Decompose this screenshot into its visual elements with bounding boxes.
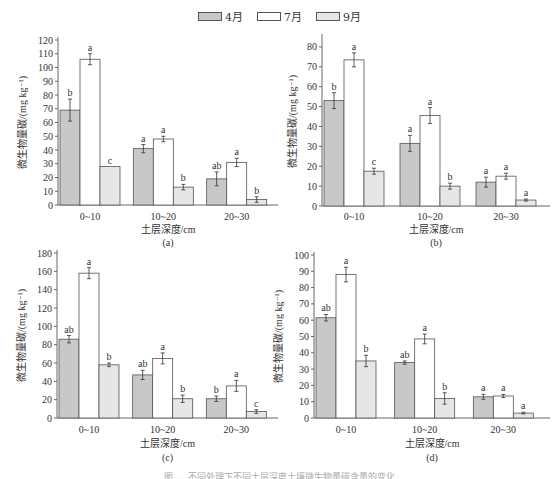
y-tick-label: 40 [299, 347, 309, 358]
y-tick-label: 20 [42, 394, 52, 405]
y-tick-label: 70 [299, 298, 309, 309]
x-tick-label: 20~30 [224, 211, 249, 222]
significance-letter: a [504, 161, 509, 172]
significance-letter: a [160, 341, 165, 352]
significance-letter: a [408, 123, 413, 134]
bar-4月-10~20 [395, 363, 415, 418]
y-tick-label: 110 [38, 48, 53, 59]
x-tick-label: 10~20 [150, 424, 175, 435]
significance-letter: b [68, 87, 73, 98]
x-tick-label: 0~10 [336, 424, 356, 435]
y-axis-label: 微生物量碳/(mg kg⁻¹) [16, 76, 29, 169]
significance-letter: a [501, 382, 506, 393]
chart-panel-d: 0102030405060708090100微生物量碳/(mg kg⁻¹)aba… [280, 240, 559, 467]
legend-item-april: 4月 [198, 8, 243, 24]
y-tick-label: 30 [43, 158, 53, 169]
figure-caption: 图 ... 不同处理下不同土层深度土壤微生物量碳含量的变化 [0, 470, 559, 479]
legend-item-september: 9月 [316, 8, 361, 24]
y-tick-label: 60 [307, 81, 317, 92]
y-tick-label: 50 [43, 131, 53, 142]
y-tick-label: 80 [299, 282, 309, 293]
y-tick-label: 60 [299, 315, 309, 326]
significance-letter: ab [400, 349, 409, 360]
x-tick-label: 0~10 [80, 211, 100, 222]
significance-letter: a [87, 256, 92, 267]
bar-7月-20~30 [496, 176, 516, 206]
significance-letter: b [254, 185, 259, 196]
y-tick-label: 10 [43, 186, 53, 197]
significance-letter: a [344, 255, 349, 266]
y-tick-label: 100 [37, 321, 52, 332]
y-tick-label: 30 [299, 364, 309, 375]
bar-7月-10~20 [415, 339, 435, 418]
significance-letter: a [481, 382, 486, 393]
y-tick-label: 80 [43, 90, 53, 101]
significance-letter: a [422, 322, 427, 333]
y-tick-label: 20 [307, 161, 317, 172]
significance-letter: b [214, 384, 219, 395]
bar-9月-0~10 [364, 171, 384, 206]
y-tick-label: 140 [37, 284, 52, 295]
significance-letter: b [180, 383, 185, 394]
y-tick-label: 70 [307, 61, 317, 72]
y-tick-label: 40 [42, 376, 52, 387]
bar-4月-10~20 [400, 143, 420, 206]
legend-label-september: 9月 [343, 8, 361, 24]
significance-letter: b [107, 351, 112, 362]
y-tick-label: 40 [43, 145, 53, 156]
x-tick-label: 20~30 [493, 211, 518, 222]
significance-letter: ab [64, 324, 73, 335]
y-tick-label: 90 [299, 266, 309, 277]
y-tick-label: 80 [42, 339, 52, 350]
bar-7月-10~20 [153, 139, 173, 205]
bar-9月-0~10 [100, 167, 120, 206]
y-tick-label: 50 [299, 331, 309, 342]
y-tick-label: 40 [307, 121, 317, 132]
bar-4月-0~10 [316, 318, 336, 418]
x-axis-label: 土层深度/cm [405, 437, 460, 449]
legend-swatch-september [316, 12, 340, 21]
y-tick-label: 160 [37, 266, 52, 277]
y-tick-label: 0 [312, 201, 317, 212]
significance-letter: a [234, 368, 239, 379]
significance-letter: b [448, 171, 453, 182]
x-tick-label: 10~20 [412, 424, 437, 435]
significance-letter: b [364, 343, 369, 354]
significance-letter: a [521, 400, 526, 411]
x-tick-label: 20~30 [224, 424, 249, 435]
bar-9月-0~10 [99, 365, 119, 418]
y-tick-label: 80 [307, 41, 317, 52]
bar-9月-0~10 [356, 361, 376, 418]
y-axis-label: 微生物量碳/(mg kg⁻¹) [15, 289, 28, 382]
chart-legend: 4月 7月 9月 [0, 8, 559, 24]
significance-letter: c [372, 156, 377, 167]
bar-7月-0~10 [79, 273, 99, 418]
panel-label: (c) [162, 452, 173, 464]
x-tick-label: 0~10 [344, 211, 364, 222]
bar-4月-10~20 [133, 149, 153, 205]
y-tick-label: 90 [43, 76, 53, 87]
significance-letter: ab [212, 160, 221, 171]
x-axis-label: 土层深度/cm [409, 223, 464, 235]
y-tick-label: 100 [38, 62, 53, 73]
significance-letter: a [524, 187, 529, 198]
significance-letter: a [234, 146, 239, 157]
significance-letter: c [254, 398, 259, 409]
y-tick-label: 120 [37, 303, 52, 314]
y-tick-label: 50 [307, 101, 317, 112]
y-tick-label: 0 [48, 200, 53, 211]
significance-letter: ab [321, 302, 330, 313]
bar-7月-0~10 [344, 60, 364, 206]
bar-4月-0~10 [59, 339, 79, 418]
x-tick-label: 20~30 [491, 424, 516, 435]
significance-letter: b [332, 81, 337, 92]
y-tick-label: 60 [42, 358, 52, 369]
y-tick-label: 20 [299, 380, 309, 391]
x-axis-label: 土层深度/cm [141, 223, 196, 235]
bar-7月-10~20 [420, 116, 440, 206]
y-tick-label: 0 [47, 413, 52, 424]
bar-4月-0~10 [60, 110, 80, 205]
significance-letter: a [428, 96, 433, 107]
y-axis-label: 微生物量碳/(mg kg⁻¹) [272, 290, 285, 383]
y-tick-label: 70 [43, 103, 53, 114]
